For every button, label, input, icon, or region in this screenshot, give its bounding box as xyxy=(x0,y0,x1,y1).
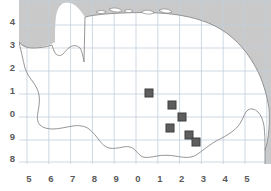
x-tick-label: 8 xyxy=(87,174,101,184)
y-tick-label: 3 xyxy=(1,40,15,50)
x-tick-label: 9 xyxy=(109,174,123,184)
x-tick-label: 6 xyxy=(44,174,58,184)
x-tick-label: 7 xyxy=(66,174,80,184)
x-tick-label: 0 xyxy=(131,174,145,184)
y-tick-label: 9 xyxy=(1,132,15,142)
x-tick-label: 5 xyxy=(22,174,36,184)
island-3 xyxy=(124,10,133,13)
x-tick-label: 1 xyxy=(153,174,167,184)
record-marker[interactable] xyxy=(178,113,186,121)
y-tick-label: 0 xyxy=(1,109,15,119)
map-plot-area[interactable] xyxy=(19,0,271,164)
x-tick-label: 4 xyxy=(218,174,232,184)
x-tick-label: 2 xyxy=(175,174,189,184)
map-canvas xyxy=(19,0,271,164)
record-marker[interactable] xyxy=(145,89,153,97)
y-tick-label: 2 xyxy=(1,63,15,73)
island-1 xyxy=(96,11,106,14)
x-tick-label: 3 xyxy=(196,174,210,184)
record-marker[interactable] xyxy=(168,101,176,109)
y-tick-label: 1 xyxy=(1,86,15,96)
record-marker[interactable] xyxy=(192,138,200,146)
x-tick-label: 5 xyxy=(240,174,254,184)
record-marker[interactable] xyxy=(166,124,174,132)
y-tick-label: 8 xyxy=(1,154,15,164)
distribution-map-figure: 4 3 2 1 0 9 8 5 6 7 8 9 0 1 2 3 4 5 xyxy=(0,0,271,191)
y-tick-label: 4 xyxy=(1,17,15,27)
